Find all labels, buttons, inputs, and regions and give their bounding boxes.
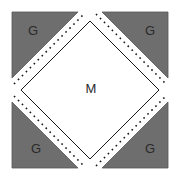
center-label: M xyxy=(86,81,97,96)
corner-label-top-left: G xyxy=(28,23,38,38)
corner-label-bottom-right: G xyxy=(145,141,155,156)
corner-label-bottom-left: G xyxy=(31,141,41,156)
quilt-block-diagram: G G G G M xyxy=(0,0,180,181)
corner-label-top-right: G xyxy=(145,23,155,38)
